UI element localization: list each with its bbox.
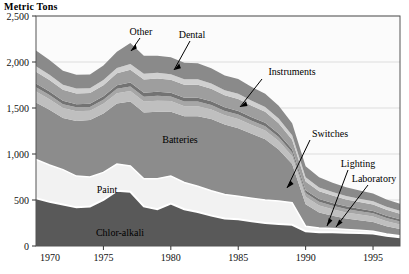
annotation-chlor-alkali: Chlor-alkali xyxy=(96,227,144,238)
annotation-laboratory: Laboratory xyxy=(352,173,396,184)
annotation-switches: Switches xyxy=(312,128,348,139)
annotation-other: Other xyxy=(130,26,153,37)
x-axis-ticks: 197019751980198519901995 xyxy=(40,246,383,263)
x-tick-label: 1980 xyxy=(161,252,181,263)
y-tick-label: 2,500 xyxy=(7,11,30,22)
annotation-dental: Dental xyxy=(179,29,206,40)
x-tick-label: 1990 xyxy=(296,252,316,263)
x-tick-label: 1975 xyxy=(93,252,113,263)
x-tick-label: 1995 xyxy=(363,252,383,263)
y-tick-label: 0 xyxy=(24,241,29,252)
y-tick-label: 1,000 xyxy=(7,149,30,160)
y-axis-ticks: 05001,0001,5002,0002,500 xyxy=(7,11,37,252)
annotation-instruments: Instruments xyxy=(268,66,315,77)
plot-area: 05001,0001,5002,0002,500 197019751980198… xyxy=(0,0,409,274)
stacked-area-chart: 05001,0001,5002,0002,500 197019751980198… xyxy=(0,0,409,274)
x-tick-label: 1970 xyxy=(40,252,60,263)
annotation-paint: Paint xyxy=(97,184,118,195)
annotation-batteries: Batteries xyxy=(162,134,198,145)
annotation-lighting: Lighting xyxy=(341,158,375,169)
y-tick-label: 500 xyxy=(14,195,29,206)
chart-root: Metric Tons 05001,0001,5002,0002,500 197… xyxy=(0,0,409,274)
y-tick-label: 1,500 xyxy=(7,103,30,114)
x-tick-label: 1985 xyxy=(228,252,248,263)
y-tick-label: 2,000 xyxy=(7,57,30,68)
